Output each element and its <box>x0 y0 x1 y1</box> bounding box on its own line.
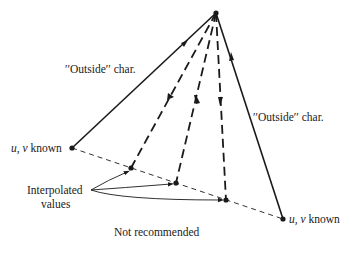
known-right-word: known <box>306 213 340 225</box>
pointer-interp-2 <box>91 184 171 190</box>
label-outside-char-right: ′′Outside′′ char. <box>253 111 324 123</box>
known-left-vars: u, v <box>11 142 29 155</box>
inside-characteristic-1 <box>131 13 216 168</box>
known-left-word: known <box>28 142 62 154</box>
node-known-right <box>280 216 285 221</box>
characteristics-diagram: ′′Outside′′ char. ′′Outside′′ char. u, v… <box>0 0 350 255</box>
label-outside-char-left: ′′Outside′′ char. <box>65 63 136 75</box>
caption-not-recommended: Not recommended <box>114 226 200 238</box>
arrow-inside-1-icon <box>167 93 174 100</box>
node-interp-2 <box>173 180 178 185</box>
node-known-left <box>69 145 74 150</box>
arrow-left-char-icon <box>181 40 188 47</box>
known-right-vars: u, v <box>289 213 307 226</box>
label-known-right: u, v known <box>289 213 340 226</box>
outside-characteristic-left <box>72 13 216 148</box>
label-interpolated-line2: values <box>41 198 71 210</box>
node-interp-1 <box>128 165 133 170</box>
label-interpolated-line1: Interpolated <box>27 184 83 197</box>
node-apex <box>213 10 218 15</box>
label-known-left: u, v known <box>11 142 62 155</box>
node-interp-3 <box>223 197 228 202</box>
